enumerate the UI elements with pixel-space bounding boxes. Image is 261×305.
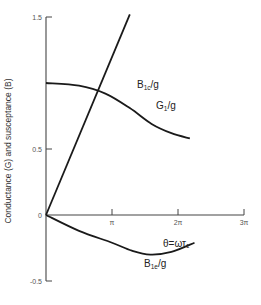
series-label: B1c/g [137,79,159,91]
y-tick-label: 0 [38,212,42,219]
series-line-0 [46,14,130,215]
y-tick-label: 0.5 [32,146,42,153]
x-axis: π2π3π [46,209,249,226]
y-axis-title: Conductance (G) and susceptance (B) [3,78,13,223]
x-tick-label: 2π [174,219,183,226]
series-group [46,14,195,254]
x-tick-label: π [110,219,115,226]
series-label: G1/g [156,100,176,112]
annotation-theta: θ=ωτ₁ [163,238,190,249]
y-tick-label: -0.5 [30,278,42,285]
series-label: B1e/g [144,258,166,270]
chart: 1.50.50-0.5 π2π3π B1c/gG1/gB1e/g Conduct… [0,0,261,305]
y-axis: 1.50.50-0.5 [30,14,52,285]
x-tick-label: 3π [240,219,249,226]
y-tick-label: 1.5 [32,14,42,21]
